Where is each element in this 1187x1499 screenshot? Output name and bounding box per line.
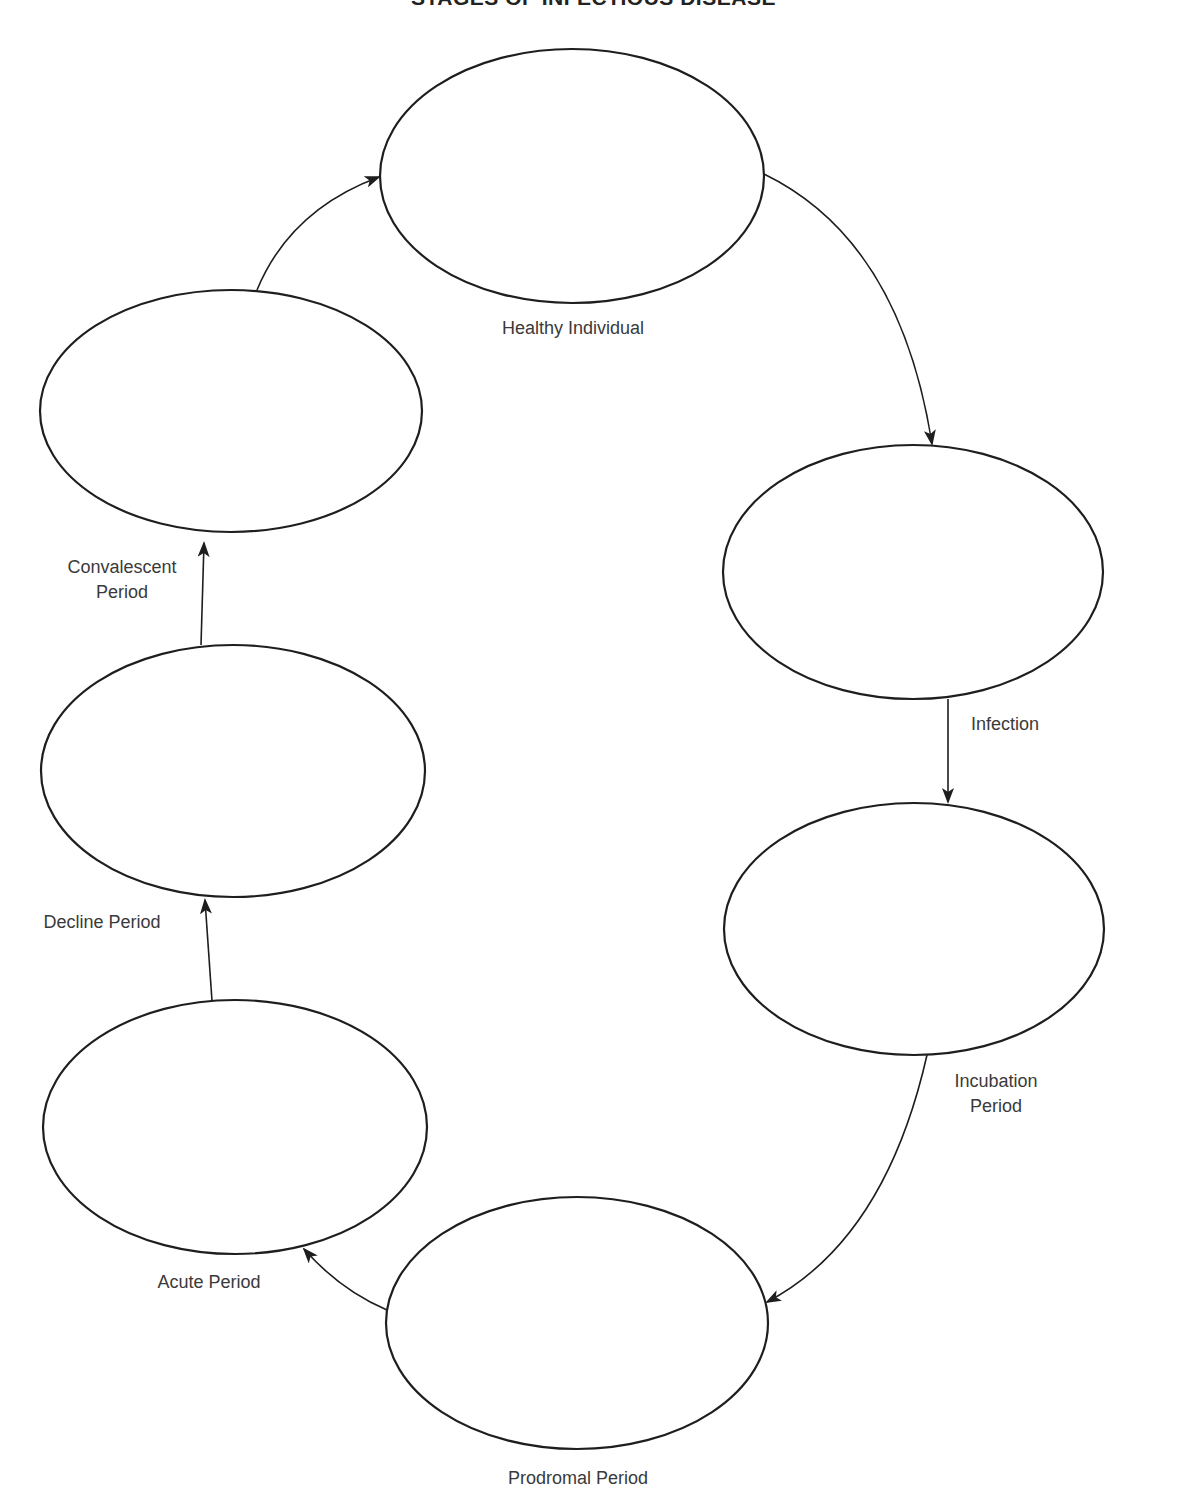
arrow-incubation-to-prodromal [767, 1055, 927, 1302]
stage-ellipse-prodromal [386, 1197, 768, 1449]
label-line: Healthy Individual [473, 316, 673, 341]
label-acute-period: Acute Period [134, 1270, 284, 1295]
label-line: Acute Period [134, 1270, 284, 1295]
label-infection: Infection [955, 712, 1055, 737]
label-convalescent-period: Convalescent Period [47, 555, 197, 605]
arrow-decline-to-convalescent [201, 543, 204, 645]
label-line: Period [936, 1094, 1056, 1119]
stage-ellipse-decline [41, 645, 425, 897]
arrow-healthy-to-infection [764, 174, 932, 444]
label-line: Infection [955, 712, 1055, 737]
label-line: Incubation [936, 1069, 1056, 1094]
stage-ellipse-infection [723, 445, 1103, 699]
label-incubation-period: Incubation Period [936, 1069, 1056, 1119]
label-line: Prodromal Period [478, 1466, 678, 1491]
stage-ellipse-acute [43, 1000, 427, 1254]
label-line: Decline Period [22, 910, 182, 935]
arrow-acute-to-decline [205, 900, 212, 1001]
label-line: Period [47, 580, 197, 605]
label-healthy-individual: Healthy Individual [473, 316, 673, 341]
label-line: Convalescent [47, 555, 197, 580]
stage-ellipse-convalescent [40, 290, 422, 532]
label-decline-period: Decline Period [22, 910, 182, 935]
arrow-convalescent-to-healthy [257, 177, 379, 290]
stage-ellipse-incubation [724, 803, 1104, 1055]
label-prodromal-period: Prodromal Period [478, 1466, 678, 1491]
arrow-prodromal-to-acute [304, 1249, 387, 1310]
stage-ellipse-healthy [380, 49, 764, 303]
